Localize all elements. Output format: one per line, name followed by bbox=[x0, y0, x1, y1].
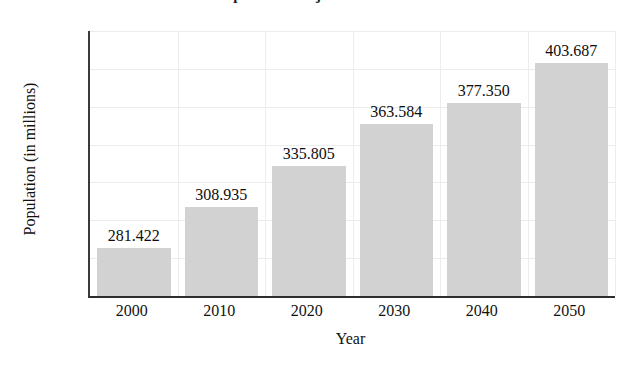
bar[interactable] bbox=[272, 166, 346, 296]
bar[interactable] bbox=[360, 124, 434, 296]
bar-value-label: 403.687 bbox=[529, 43, 615, 59]
x-tick-label: 2000 bbox=[88, 303, 176, 319]
bar[interactable] bbox=[185, 207, 259, 296]
gridline-vertical bbox=[178, 31, 179, 296]
gridline-vertical bbox=[615, 31, 616, 296]
bar-value-label: 335.805 bbox=[266, 146, 352, 162]
bar[interactable] bbox=[97, 248, 171, 296]
chart-page: U.S. Population Projections: 2000–2050 P… bbox=[0, 0, 630, 369]
plot-area: 281.422308.935335.805363.584377.350403.6… bbox=[88, 31, 615, 298]
x-tick-label: 2030 bbox=[351, 303, 439, 319]
bar[interactable] bbox=[447, 103, 521, 296]
x-tick-label: 2020 bbox=[263, 303, 351, 319]
y-axis-title: Population (in millions) bbox=[21, 34, 39, 284]
bar-value-label: 377.350 bbox=[441, 83, 527, 99]
bar-value-label: 363.584 bbox=[354, 104, 440, 120]
bar-value-label: 308.935 bbox=[179, 187, 265, 203]
gridline-vertical bbox=[528, 31, 529, 296]
gridline-vertical bbox=[353, 31, 354, 296]
bar-value-label: 281.422 bbox=[91, 228, 177, 244]
x-tick-label: 2050 bbox=[526, 303, 614, 319]
x-tick-label: 2010 bbox=[176, 303, 264, 319]
x-tick-label: 2040 bbox=[438, 303, 526, 319]
x-axis-title: Year bbox=[88, 330, 613, 348]
gridline-vertical bbox=[440, 31, 441, 296]
chart-title: U.S. Population Projections: 2000–2050 bbox=[0, 0, 630, 4]
bar[interactable] bbox=[535, 63, 609, 296]
gridline-vertical bbox=[265, 31, 266, 296]
